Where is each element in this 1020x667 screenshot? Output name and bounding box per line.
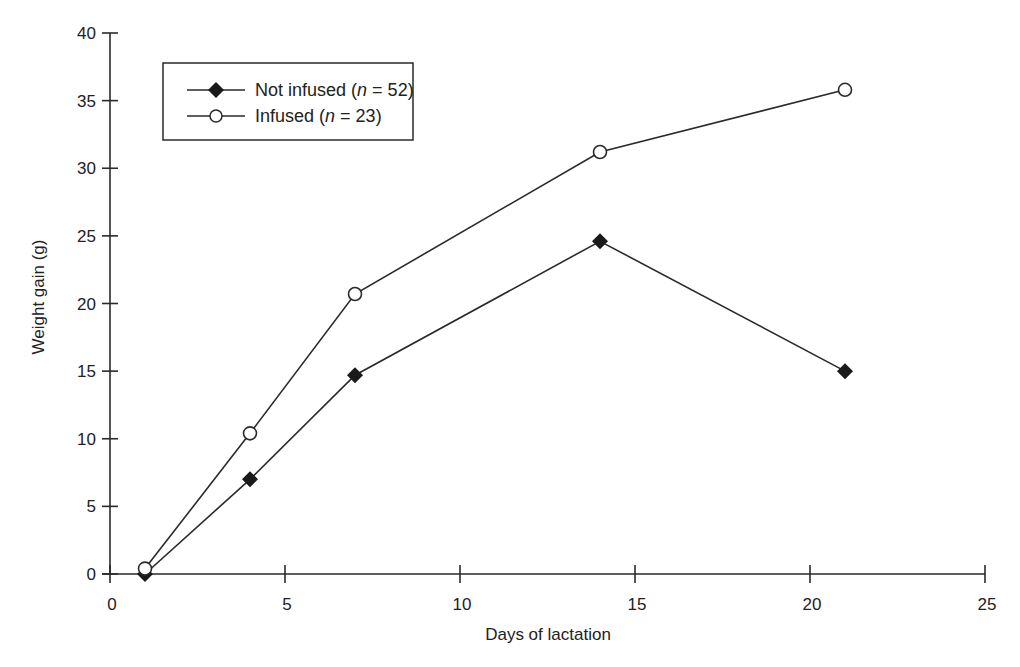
y-tick-label: 20 bbox=[77, 295, 96, 314]
x-tick-label: 0 bbox=[107, 595, 116, 614]
series-not-infused bbox=[137, 233, 853, 582]
x-tick-label: 25 bbox=[978, 595, 997, 614]
open-circle-marker bbox=[349, 288, 362, 301]
y-axis-title: Weight gain (g) bbox=[29, 240, 48, 355]
y-tick-label: 25 bbox=[77, 227, 96, 246]
open-circle-marker bbox=[244, 427, 257, 440]
legend-label-not-infused: Not infused bbox=[255, 80, 346, 100]
y-tick-label: 40 bbox=[77, 24, 96, 43]
svg-text:Infused (n =: Infused (n = 23) bbox=[255, 106, 382, 126]
y-tick-label: 5 bbox=[87, 497, 96, 516]
legend-box bbox=[163, 63, 413, 140]
svg-text:Not infused (n: Not infused (n = 52) bbox=[255, 80, 414, 100]
y-tick-label: 10 bbox=[77, 430, 96, 449]
y-tick-label: 15 bbox=[77, 362, 96, 381]
y-axis: 0510152025303540 bbox=[77, 24, 118, 584]
open-circle-marker bbox=[594, 146, 607, 159]
y-tick-label: 35 bbox=[77, 92, 96, 111]
series-infused bbox=[139, 83, 852, 575]
x-axis-title: Days of lactation bbox=[485, 625, 611, 644]
legend: Not infused (n = 52) Infused (n = 23) bbox=[163, 63, 414, 140]
open-circle-marker bbox=[839, 83, 852, 96]
open-circle-marker bbox=[139, 562, 152, 575]
open-circle-icon bbox=[210, 110, 222, 122]
line-chart: 0510152025303540 0510152025 Weight gain … bbox=[0, 0, 1020, 667]
y-tick-label: 30 bbox=[77, 159, 96, 178]
x-tick-label: 5 bbox=[282, 595, 291, 614]
y-tick-label: 0 bbox=[87, 565, 96, 584]
filled-diamond-marker bbox=[592, 233, 608, 249]
x-tick-label: 10 bbox=[453, 595, 472, 614]
x-tick-label: 20 bbox=[803, 595, 822, 614]
legend-label-infused: Infused bbox=[255, 106, 314, 126]
x-tick-label: 15 bbox=[628, 595, 647, 614]
x-axis: 0510152025 bbox=[102, 565, 996, 614]
plot-area bbox=[137, 83, 853, 582]
filled-diamond-marker bbox=[837, 363, 853, 379]
